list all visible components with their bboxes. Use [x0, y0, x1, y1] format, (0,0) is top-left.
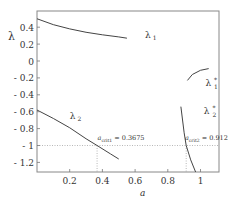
x-tick-label: 1 — [198, 176, 204, 186]
y-tick-label: 0 — [28, 57, 34, 67]
y-tick-label: - 0.2 — [14, 73, 34, 83]
y-tick-label: - 0.8 — [14, 124, 34, 134]
y-axis-label: λ — [8, 30, 15, 43]
x-tick-label: 0.6 — [128, 176, 143, 186]
y-tick-label: 0.2 — [20, 40, 34, 50]
y-tick-label: - 1 — [22, 141, 34, 151]
plot-frame — [37, 11, 219, 172]
x-tick-label: 0.4 — [95, 176, 110, 186]
x-tick-label: 0.8 — [161, 176, 176, 186]
y-tick-label: 0.4 — [20, 23, 35, 33]
chart: 0.40.20- 0.2- 0.4- 0.6- 0.8- 1- 1.2 0.20… — [0, 0, 228, 200]
y-axis: 0.40.20- 0.2- 0.4- 0.6- 0.8- 1- 1.2 — [14, 23, 40, 168]
y-tick-label: - 0.4 — [14, 90, 34, 100]
y-tick-label: - 0.6 — [14, 107, 34, 117]
y-tick-label: - 1.2 — [14, 158, 34, 168]
x-axis-label: a — [140, 188, 145, 198]
x-tick-label: 0.2 — [63, 176, 77, 186]
